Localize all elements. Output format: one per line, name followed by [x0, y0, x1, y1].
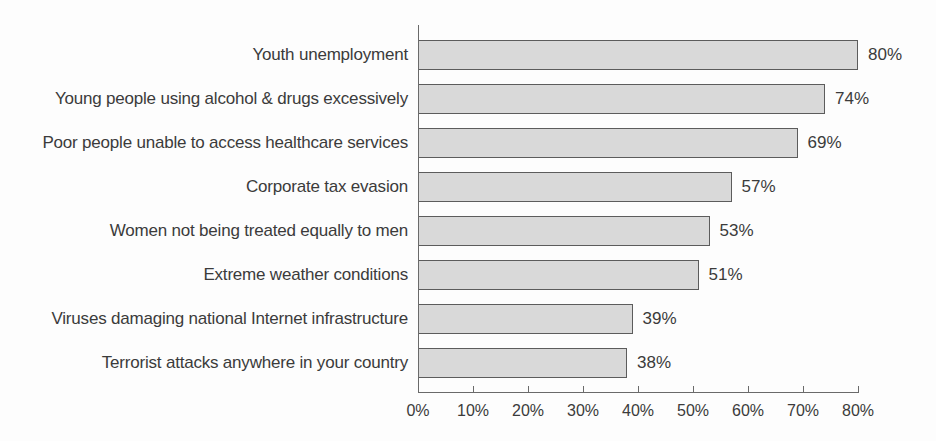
category-label: Corporate tax evasion: [0, 172, 408, 202]
x-axis-tick: [473, 386, 474, 392]
y-axis-line: [418, 25, 419, 393]
category-label: Poor people unable to access healthcare …: [0, 128, 408, 158]
x-axis-tick: [803, 386, 804, 392]
category-label: Women not being treated equally to men: [0, 216, 408, 246]
bar-chart-figure: Youth unemployment80%Young people using …: [0, 0, 936, 441]
x-tick-label: 0%: [390, 402, 446, 420]
category-label: Young people using alcohol & drugs exces…: [0, 84, 408, 114]
x-axis-tick: [583, 386, 584, 392]
value-label: 57%: [742, 172, 776, 202]
x-tick-label: 50%: [665, 402, 721, 420]
value-label: 80%: [868, 40, 902, 70]
bar: [418, 172, 732, 202]
x-axis-tick: [528, 386, 529, 392]
value-label: 53%: [720, 216, 754, 246]
x-axis-line: [418, 392, 859, 393]
bar: [418, 348, 627, 378]
x-axis-tick: [748, 386, 749, 392]
value-label: 39%: [643, 304, 677, 334]
value-label: 51%: [709, 260, 743, 290]
x-tick-label: 80%: [830, 402, 886, 420]
bar: [418, 260, 699, 290]
x-tick-label: 40%: [610, 402, 666, 420]
x-axis-tick: [418, 386, 419, 392]
x-tick-label: 70%: [775, 402, 831, 420]
x-tick-label: 10%: [445, 402, 501, 420]
bar: [418, 216, 710, 246]
x-axis-tick: [858, 386, 859, 392]
value-label: 74%: [835, 84, 869, 114]
category-label: Viruses damaging national Internet infra…: [0, 304, 408, 334]
value-label: 38%: [637, 348, 671, 378]
value-label: 69%: [808, 128, 842, 158]
category-label: Youth unemployment: [0, 40, 408, 70]
category-label: Extreme weather conditions: [0, 260, 408, 290]
bar-chart: Youth unemployment80%Young people using …: [0, 0, 936, 441]
x-tick-label: 30%: [555, 402, 611, 420]
bar: [418, 40, 858, 70]
bar: [418, 84, 825, 114]
bar: [418, 128, 798, 158]
x-axis-tick: [693, 386, 694, 392]
x-axis-tick: [638, 386, 639, 392]
bar: [418, 304, 633, 334]
x-tick-label: 60%: [720, 402, 776, 420]
category-label: Terrorist attacks anywhere in your count…: [0, 348, 408, 378]
x-tick-label: 20%: [500, 402, 556, 420]
